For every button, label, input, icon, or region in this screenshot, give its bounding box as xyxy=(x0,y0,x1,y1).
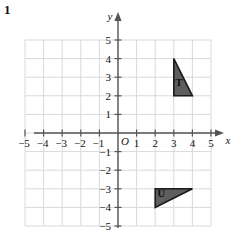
shape-label-u: U xyxy=(157,187,165,199)
y-tick-label: −1 xyxy=(99,146,111,158)
x-tick-label: 1 xyxy=(134,137,140,149)
coordinate-plane-figure: −5−4−3−2−11234554321−1−2−3−4−5 TU x y O xyxy=(0,0,246,232)
y-tick-label: 4 xyxy=(106,53,112,65)
x-tick-label: 4 xyxy=(190,137,196,149)
y-tick-label: 2 xyxy=(106,90,112,102)
y-tick-label: −2 xyxy=(99,164,111,176)
y-tick-label: −5 xyxy=(99,220,111,232)
x-tick-label: −4 xyxy=(37,137,49,149)
x-tick-label: −3 xyxy=(55,137,67,149)
x-tick-label: 3 xyxy=(171,137,177,149)
shape-label-t: T xyxy=(175,76,183,88)
origin-label: O xyxy=(121,135,129,147)
x-axis-label: x xyxy=(225,134,231,146)
x-axis-arrow-icon xyxy=(215,129,224,136)
x-tick-label: −5 xyxy=(18,137,30,149)
y-tick-label: −3 xyxy=(99,183,111,195)
y-tick-label: 1 xyxy=(106,108,112,120)
y-tick-label: −4 xyxy=(99,201,111,213)
x-tick-label: 5 xyxy=(208,137,214,149)
x-tick-label: −2 xyxy=(74,137,86,149)
y-tick-label: 3 xyxy=(106,71,112,83)
y-axis-label: y xyxy=(107,10,113,22)
y-axis-arrow-icon xyxy=(114,12,121,21)
x-tick-label: 2 xyxy=(152,137,158,149)
y-tick-label: 5 xyxy=(106,34,112,46)
